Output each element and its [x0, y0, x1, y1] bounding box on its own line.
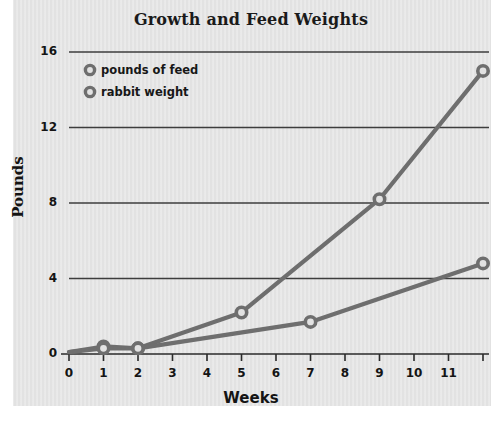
x-axis-ticks [69, 354, 483, 361]
y-tick-label-4: 4 [25, 271, 57, 285]
legend-label-1: rabbit weight [101, 85, 189, 99]
data-point-1-2 [133, 343, 143, 353]
x-tick-label-9: 9 [365, 366, 395, 380]
x-tick-label-10: 10 [399, 366, 429, 380]
chart-container: Growth and Feed Weights Pounds Weeks 048… [0, 0, 502, 429]
chart-plot-area [0, 0, 502, 429]
x-tick-label-2: 2 [123, 366, 153, 380]
y-tick-label-8: 8 [25, 195, 57, 209]
legend-marker-1 [85, 87, 94, 96]
legend-markers [85, 65, 94, 96]
y-tick-label-16: 16 [25, 44, 57, 58]
data-point-0-5 [478, 66, 488, 76]
x-tick-label-6: 6 [261, 366, 291, 380]
x-tick-label-4: 4 [192, 366, 222, 380]
x-tick-label-1: 1 [89, 366, 119, 380]
data-point-0-3 [236, 307, 246, 317]
data-point-0-4 [374, 194, 384, 204]
series-line-0 [69, 71, 483, 352]
data-point-1-4 [478, 258, 488, 268]
x-tick-label-3: 3 [158, 366, 188, 380]
data-point-1-3 [305, 317, 315, 327]
legend-label-0: pounds of feed [101, 63, 198, 77]
x-tick-label-0: 0 [54, 366, 84, 380]
x-tick-label-8: 8 [330, 366, 360, 380]
y-tick-label-12: 12 [25, 120, 57, 134]
x-tick-label-11: 11 [434, 366, 464, 380]
x-tick-label-7: 7 [296, 366, 326, 380]
legend-marker-0 [85, 65, 94, 74]
x-tick-label-5: 5 [227, 366, 257, 380]
data-point-1-1 [98, 343, 108, 353]
y-tick-label-0: 0 [25, 346, 57, 360]
data-series-group [69, 66, 488, 354]
series-line-1 [69, 263, 483, 352]
